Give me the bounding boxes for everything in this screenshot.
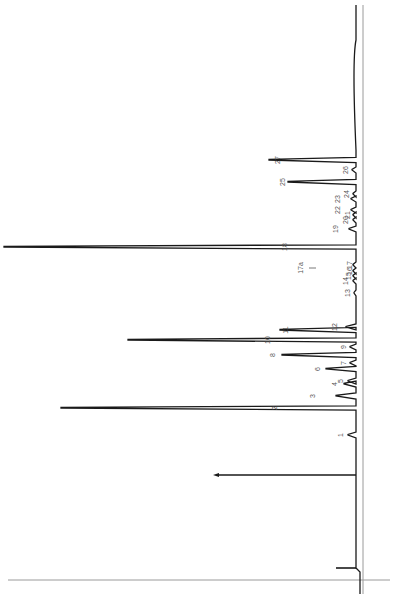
peak-label: 27 xyxy=(274,156,281,164)
peak-label: 9 xyxy=(340,345,347,349)
peak-label: 11 xyxy=(282,326,289,333)
peak-label: 13 xyxy=(344,289,351,297)
chromatogram: 123456789101112131415161717a181920212223… xyxy=(0,0,397,594)
arrowhead-icon xyxy=(213,473,219,477)
peak-label: 22 xyxy=(334,206,341,214)
peak-label: 10 xyxy=(264,336,271,344)
peak-label: 21 xyxy=(344,211,351,219)
peak-label: 3 xyxy=(309,394,316,398)
trace-group xyxy=(4,5,360,594)
peak-label: 23 xyxy=(334,195,341,203)
peak-label: 12 xyxy=(331,323,338,331)
peak-label: 26 xyxy=(342,166,349,174)
peak-label: 17a xyxy=(297,262,304,274)
peak-label: 17 xyxy=(346,261,353,269)
peak-label: 5 xyxy=(337,379,344,383)
chromatogram-trace xyxy=(4,5,360,594)
peak-label: 1 xyxy=(337,433,344,437)
peak-label: 25 xyxy=(279,178,286,186)
peak-label: 2 xyxy=(271,406,278,410)
peak-label: 18 xyxy=(281,243,288,251)
peak-label: 24 xyxy=(343,190,350,198)
peak-label: 7 xyxy=(340,361,347,365)
peak-label: 6 xyxy=(314,367,321,371)
peak-label: 19 xyxy=(332,225,339,233)
peak-label: 8 xyxy=(269,353,276,357)
